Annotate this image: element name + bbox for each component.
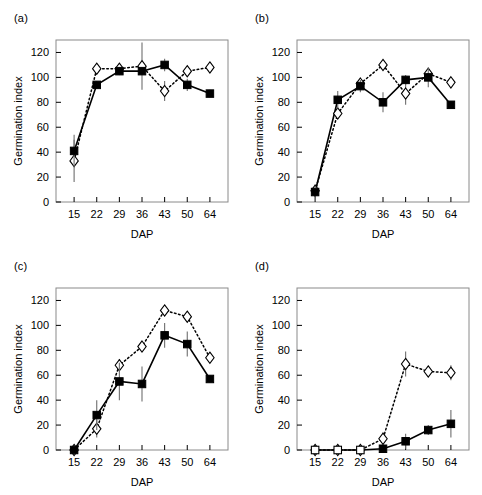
data-point-square xyxy=(425,426,433,434)
data-point-diamond xyxy=(401,358,409,369)
x-tick-label: 22 xyxy=(332,208,344,220)
x-tick-label: 29 xyxy=(354,208,366,220)
data-point-square xyxy=(161,332,169,340)
figure-root: (a) 02040608010012015222936435064DAPGerm… xyxy=(0,0,482,495)
x-axis-title: DAP xyxy=(131,228,154,240)
x-tick-label: 36 xyxy=(136,456,148,468)
x-tick-label: 64 xyxy=(445,208,457,220)
data-point-square xyxy=(161,61,169,69)
x-tick-label: 64 xyxy=(204,456,216,468)
y-axis-title: Germination index xyxy=(12,324,24,414)
panel-b: (b) 02040608010012015222936435064DAPGerm… xyxy=(241,0,482,247)
y-axis-title: Germination index xyxy=(253,76,265,166)
data-point-square xyxy=(447,420,455,428)
data-point-square xyxy=(93,81,101,89)
x-tick-label: 36 xyxy=(377,456,389,468)
x-tick-label: 15 xyxy=(309,208,321,220)
data-point-square xyxy=(138,67,146,75)
x-tick-label: 36 xyxy=(136,208,148,220)
x-tick-label: 50 xyxy=(422,208,434,220)
data-point-square xyxy=(206,375,214,383)
data-point-square xyxy=(116,67,124,75)
y-tick-label: 80 xyxy=(37,344,49,356)
y-tick-label: 40 xyxy=(278,146,290,158)
data-point-square xyxy=(379,445,387,453)
x-tick-label: 43 xyxy=(159,208,171,220)
y-tick-label: 40 xyxy=(37,394,49,406)
y-tick-label: 20 xyxy=(278,419,290,431)
x-tick-label: 15 xyxy=(68,208,80,220)
x-tick-label: 50 xyxy=(181,456,193,468)
x-tick-label: 29 xyxy=(113,208,125,220)
y-tick-label: 60 xyxy=(37,369,49,381)
y-tick-label: 80 xyxy=(278,344,290,356)
data-point-square xyxy=(447,101,455,109)
x-tick-label: 22 xyxy=(91,208,103,220)
panel-d: (d) 02040608010012015222936435064DAPGerm… xyxy=(241,248,482,495)
data-point-square xyxy=(311,188,319,196)
y-tick-label: 20 xyxy=(278,171,290,183)
plot-area-c: 02040608010012015222936435064DAPGerminat… xyxy=(0,248,241,495)
x-tick-label: 50 xyxy=(422,456,434,468)
y-tick-label: 0 xyxy=(284,444,290,456)
x-tick-label: 50 xyxy=(181,208,193,220)
x-tick-label: 64 xyxy=(445,456,457,468)
x-tick-label: 15 xyxy=(68,456,80,468)
data-point-square xyxy=(334,96,342,104)
x-tick-label: 29 xyxy=(113,456,125,468)
x-tick-label: 43 xyxy=(400,456,412,468)
y-tick-label: 120 xyxy=(31,294,49,306)
data-point-diamond xyxy=(447,77,455,88)
panel-a: (a) 02040608010012015222936435064DAPGerm… xyxy=(0,0,241,247)
y-tick-label: 40 xyxy=(278,394,290,406)
x-tick-label: 43 xyxy=(159,456,171,468)
data-point-diamond xyxy=(138,341,146,352)
data-point-diamond xyxy=(206,62,214,73)
x-tick-label: 29 xyxy=(354,456,366,468)
x-axis-title: DAP xyxy=(372,228,395,240)
y-tick-label: 80 xyxy=(37,96,49,108)
data-point-square xyxy=(138,380,146,388)
data-point-diamond xyxy=(183,66,191,77)
y-tick-label: 60 xyxy=(278,121,290,133)
y-tick-label: 20 xyxy=(37,171,49,183)
y-tick-label: 100 xyxy=(272,71,290,83)
data-point-square xyxy=(402,76,410,84)
y-tick-label: 60 xyxy=(37,121,49,133)
plot-area-d: 02040608010012015222936435064DAPGerminat… xyxy=(241,248,482,495)
y-tick-label: 0 xyxy=(43,444,49,456)
data-point-diamond xyxy=(447,367,455,378)
y-tick-label: 120 xyxy=(31,46,49,58)
data-point-diamond xyxy=(424,366,432,377)
data-point-square xyxy=(116,378,124,386)
y-tick-label: 60 xyxy=(278,369,290,381)
y-tick-label: 100 xyxy=(31,319,49,331)
y-tick-label: 100 xyxy=(31,71,49,83)
data-point-square xyxy=(70,446,78,454)
y-tick-label: 120 xyxy=(272,294,290,306)
data-point-diamond xyxy=(401,88,409,99)
plot-area-b: 02040608010012015222936435064DAPGerminat… xyxy=(241,0,482,247)
data-point-square xyxy=(334,446,342,454)
y-tick-label: 100 xyxy=(272,319,290,331)
x-axis-title: DAP xyxy=(131,476,154,488)
data-point-square xyxy=(311,446,319,454)
y-tick-label: 0 xyxy=(43,196,49,208)
plot-area-a: 02040608010012015222936435064DAPGerminat… xyxy=(0,0,241,247)
data-point-square xyxy=(184,81,192,89)
data-point-square xyxy=(184,340,192,348)
data-point-square xyxy=(206,90,214,98)
y-tick-label: 20 xyxy=(37,419,49,431)
y-axis-title: Germination index xyxy=(12,76,24,166)
data-point-square xyxy=(402,438,410,446)
x-tick-label: 64 xyxy=(204,208,216,220)
data-point-diamond xyxy=(379,433,387,444)
y-tick-label: 120 xyxy=(272,46,290,58)
y-tick-label: 0 xyxy=(284,196,290,208)
y-tick-label: 80 xyxy=(278,96,290,108)
x-tick-label: 36 xyxy=(377,208,389,220)
series-line-open-diamond-dotted xyxy=(315,65,451,191)
data-point-square xyxy=(357,82,365,90)
data-point-square xyxy=(425,74,433,82)
data-point-square xyxy=(357,446,365,454)
